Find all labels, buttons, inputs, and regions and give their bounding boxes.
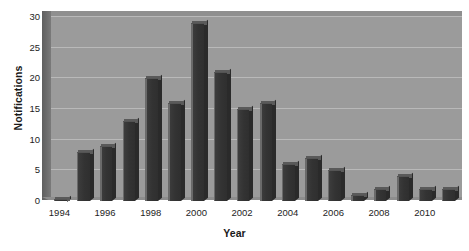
bar[interactable] xyxy=(145,78,158,201)
bar[interactable] xyxy=(77,152,90,201)
bar-front-face xyxy=(145,78,158,201)
bar-side-face xyxy=(249,106,253,201)
y-axis-tick-label: 5 xyxy=(14,164,40,175)
y-axis-tick-label: 0 xyxy=(14,195,40,206)
bar[interactable] xyxy=(282,164,295,201)
y-axis-tick-labels: 051015202530 xyxy=(14,10,40,210)
x-axis-tick-label: 2002 xyxy=(232,207,253,218)
bar[interactable] xyxy=(237,109,250,201)
bar-side-face xyxy=(204,20,208,201)
y-axis-tick-label: 25 xyxy=(14,41,40,52)
x-axis-tick-label: 2004 xyxy=(277,207,298,218)
bar[interactable] xyxy=(123,121,136,201)
bar-side-face xyxy=(227,69,231,201)
bar-chart: Notifications 051015202530 1994199619982… xyxy=(0,0,469,251)
bar-front-face xyxy=(442,189,455,201)
bar-front-face xyxy=(191,23,204,201)
x-axis-tick-label: 2008 xyxy=(369,207,390,218)
x-axis-tick-label: 2000 xyxy=(186,207,207,218)
bar[interactable] xyxy=(442,189,455,201)
bar[interactable] xyxy=(397,176,410,201)
x-axis-tick-label: 2006 xyxy=(323,207,344,218)
x-axis-tick-label: 1998 xyxy=(140,207,161,218)
x-axis-tick-label: 1996 xyxy=(95,207,116,218)
bar[interactable] xyxy=(168,103,181,201)
bar-front-face xyxy=(237,109,250,201)
bar-front-face xyxy=(282,164,295,201)
x-axis-tick-labels: 199419961998200020022004200620082010 xyxy=(42,207,462,223)
y-axis-tick-label: 20 xyxy=(14,72,40,83)
bar-side-face xyxy=(90,149,94,201)
bar-front-face xyxy=(123,121,136,201)
bar[interactable] xyxy=(305,158,318,201)
bar[interactable] xyxy=(328,170,341,201)
bar[interactable] xyxy=(419,189,432,201)
y-axis-tick-label: 15 xyxy=(14,103,40,114)
y-axis-tick-label: 30 xyxy=(14,11,40,22)
bar-series xyxy=(42,11,462,205)
bar-front-face xyxy=(77,152,90,201)
x-axis-tick-label: 2010 xyxy=(414,207,435,218)
bar-front-face xyxy=(54,199,67,202)
bar-side-face xyxy=(295,161,299,201)
bar-front-face xyxy=(351,195,364,201)
bar-side-face xyxy=(135,118,139,201)
bar-side-face xyxy=(318,155,322,201)
bar-side-face xyxy=(158,75,162,201)
bar-front-face xyxy=(374,189,387,201)
bar-side-face xyxy=(272,100,276,201)
bar[interactable] xyxy=(54,199,67,202)
plot-area xyxy=(42,11,462,205)
bar-side-face xyxy=(181,100,185,201)
bar-front-face xyxy=(214,72,227,201)
bar-front-face xyxy=(168,103,181,201)
bar-front-face xyxy=(305,158,318,201)
x-axis-tick-label: 1994 xyxy=(49,207,70,218)
bar[interactable] xyxy=(260,103,273,201)
bar[interactable] xyxy=(100,146,113,201)
bar[interactable] xyxy=(351,195,364,201)
bar[interactable] xyxy=(374,189,387,201)
bar[interactable] xyxy=(191,23,204,201)
bar-front-face xyxy=(100,146,113,201)
bar-front-face xyxy=(419,189,432,201)
bar[interactable] xyxy=(214,72,227,201)
y-axis-tick-label: 10 xyxy=(14,133,40,144)
bar-front-face xyxy=(260,103,273,201)
x-axis-title: Year xyxy=(0,227,469,239)
bar-front-face xyxy=(397,176,410,201)
bar-front-face xyxy=(328,170,341,201)
bar-side-face xyxy=(112,143,116,201)
